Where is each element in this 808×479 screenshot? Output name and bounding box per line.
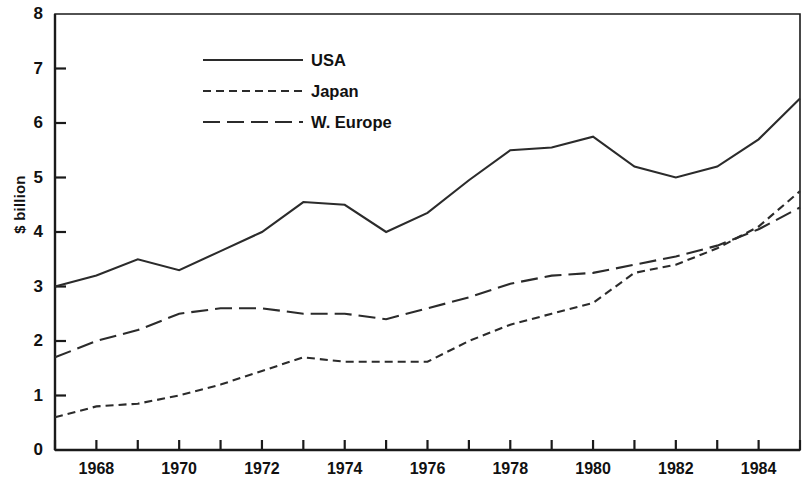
y-tick-label: 3 xyxy=(17,278,43,295)
y-tick-label: 1 xyxy=(17,387,43,404)
y-tick-label: 7 xyxy=(17,60,43,77)
x-tick-label: 1982 xyxy=(646,461,706,477)
y-tick-label: 2 xyxy=(17,332,43,349)
y-tick-label: 6 xyxy=(17,114,43,131)
x-tick-label: 1972 xyxy=(232,461,292,477)
x-tick-label: 1984 xyxy=(729,461,789,477)
x-tick-label: 1974 xyxy=(315,461,375,477)
y-tick-label: 4 xyxy=(17,223,43,240)
plot-area xyxy=(0,0,808,479)
y-tick-label: 8 xyxy=(17,5,43,22)
x-tick-label: 1968 xyxy=(66,461,126,477)
data-series-group xyxy=(55,98,800,417)
legend-label-japan: Japan xyxy=(311,83,359,100)
series-line-w-europe xyxy=(55,207,800,357)
legend-swatches xyxy=(203,60,303,122)
series-line-usa xyxy=(55,98,800,286)
y-tick-label: 0 xyxy=(17,441,43,458)
x-tick-label: 1970 xyxy=(149,461,209,477)
line-chart: $ billion 012345678 19681970197219741976… xyxy=(0,0,808,479)
y-tick-label: 5 xyxy=(17,169,43,186)
plot-frame xyxy=(55,14,800,450)
axis-frame xyxy=(55,14,800,450)
x-tick-label: 1978 xyxy=(480,461,540,477)
x-tick-label: 1976 xyxy=(398,461,458,477)
legend-label-w-europe: W. Europe xyxy=(311,114,392,131)
legend-label-usa: USA xyxy=(311,52,346,69)
x-tick-label: 1980 xyxy=(563,461,623,477)
series-line-japan xyxy=(55,191,800,417)
